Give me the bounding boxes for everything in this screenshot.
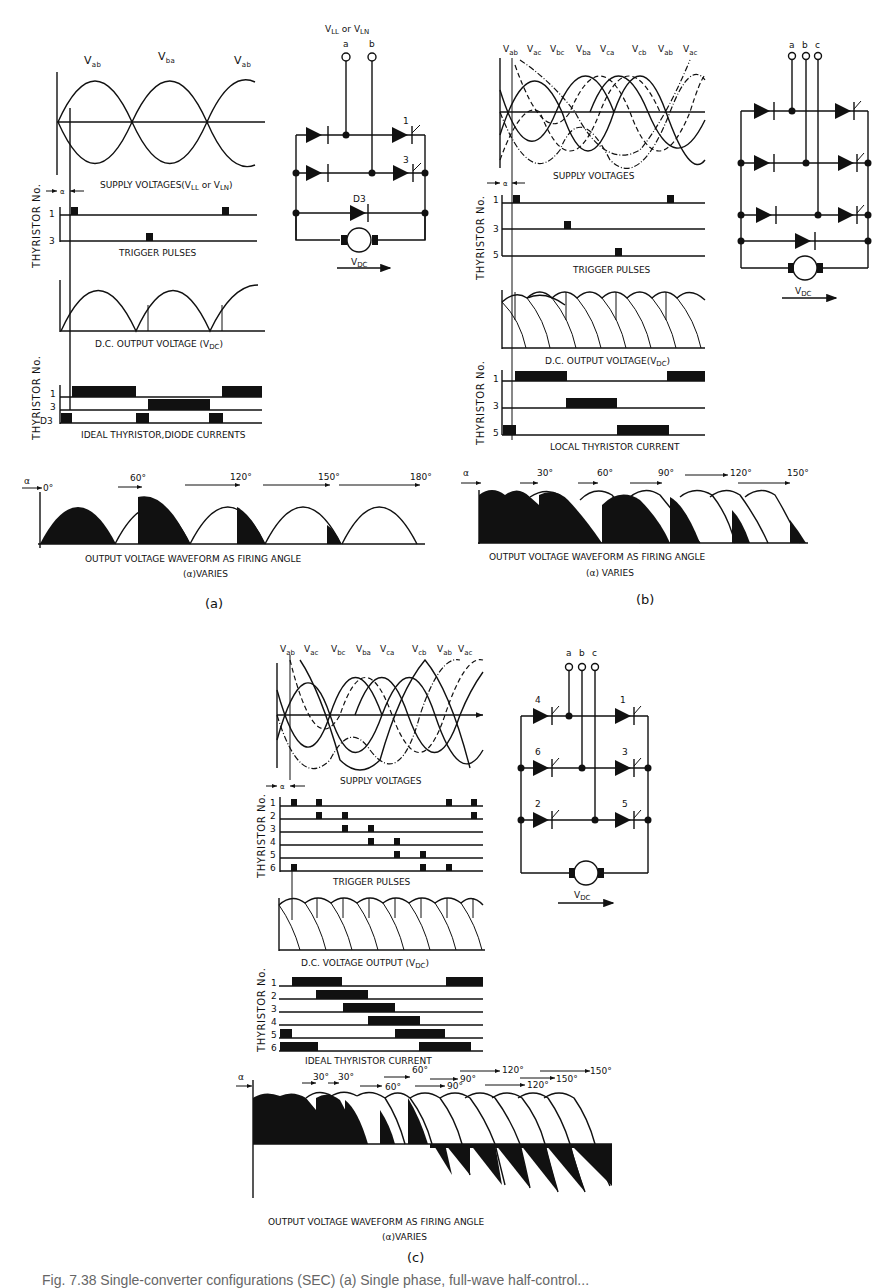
svg-text:60°: 60°: [130, 473, 146, 483]
panel-a-currents: 1 3 D3 IDEAL THYRISTOR,DIODE CURRENTS: [40, 385, 262, 440]
svg-text:5: 5: [270, 850, 276, 860]
svg-text:4: 4: [271, 1017, 277, 1027]
supply-caption: SUPPLY VOLTAGES: [553, 171, 635, 181]
svg-text:α: α: [503, 180, 508, 188]
svg-text:3: 3: [622, 747, 628, 757]
waveform-caption: OUTPUT VOLTAGE WAVEFORM AS FIRING ANGLE: [489, 552, 706, 562]
panel-b-alpha-marker: α: [487, 180, 525, 188]
svg-text:c: c: [592, 648, 597, 658]
figure-caption: Fig. 7.38 Single-converter configuration…: [42, 1272, 589, 1288]
svg-text:Vac: Vac: [527, 44, 541, 57]
svg-text:Vac: Vac: [458, 644, 472, 657]
svg-text:Vab: Vab: [437, 644, 452, 657]
svg-text:(α) VARIES: (α) VARIES: [586, 568, 634, 578]
svg-text:Vac: Vac: [683, 44, 697, 57]
svg-text:Vcb: Vcb: [632, 44, 647, 57]
svg-text:Vbc: Vbc: [550, 44, 565, 57]
svg-text:2: 2: [535, 799, 541, 809]
svg-text:1: 1: [403, 116, 409, 126]
svg-text:30°: 30°: [537, 468, 553, 478]
svg-text:(α)VARIES: (α)VARIES: [183, 569, 228, 579]
panel-label-c: (c): [407, 1250, 424, 1265]
panel-a-output-waveform: α 0° 60° 120° 150° 180°: [22, 472, 432, 579]
dc-caption: D.C. VOLTAGE OUTPUT (VDC): [301, 958, 429, 970]
svg-text:b: b: [579, 648, 585, 658]
svg-text:60°: 60°: [597, 468, 613, 478]
svg-text:3: 3: [49, 236, 55, 246]
svg-text:90°: 90°: [658, 468, 674, 478]
panel-c-supply-voltages: Vab Vac Vbc Vba Vca Vcb Vab Vac SUPPLY V…: [277, 644, 483, 786]
panel-c-alpha-marker: α: [266, 783, 305, 791]
svg-text:1: 1: [493, 374, 499, 384]
svg-text:VLL or VLN: VLL or VLN: [325, 24, 369, 36]
panel-b-dc-output: D.C. OUTPUT VOLTAGE(VDC): [502, 290, 705, 368]
svg-text:3: 3: [270, 824, 276, 834]
svg-text:6: 6: [271, 1043, 277, 1053]
svg-text:Vca: Vca: [600, 44, 614, 57]
label-vab-1: Vab: [84, 54, 101, 69]
panel-a-circuit: VLL or VLN a b: [293, 24, 429, 269]
svg-text:D3: D3: [353, 194, 366, 204]
trigger-caption: TRIGGER PULSES: [118, 248, 197, 258]
svg-text:150°: 150°: [590, 1066, 612, 1076]
svg-text:180°: 180°: [410, 472, 432, 482]
panel-b-output-waveform: α 30° 60° 90° 120° 150°: [461, 468, 809, 578]
svg-text:Vab: Vab: [658, 44, 673, 57]
svg-text:120°: 120°: [230, 472, 252, 482]
svg-text:3: 3: [403, 155, 409, 165]
svg-text:30°: 30°: [338, 1072, 354, 1082]
svg-text:120°: 120°: [502, 1065, 524, 1075]
dc-caption: D.C. OUTPUT VOLTAGE(VDC): [545, 356, 670, 368]
svg-text:150°: 150°: [318, 472, 340, 482]
dc-caption: D.C. OUTPUT VOLTAGE (VDC): [95, 339, 223, 351]
svg-text:5: 5: [493, 250, 499, 260]
svg-text:Vbc: Vbc: [331, 644, 346, 657]
svg-text:4: 4: [535, 695, 541, 705]
svg-text:5: 5: [271, 1030, 277, 1040]
svg-text:c: c: [815, 40, 820, 50]
panel-b-currents: 1 3 5 LOCAL THYRISTOR CURRENT: [493, 370, 705, 452]
panel-a-alpha-marker: α: [46, 188, 84, 196]
svg-text:0°: 0°: [43, 483, 53, 493]
svg-text:90°: 90°: [460, 1074, 476, 1084]
current-caption: IDEAL THYRISTOR,DIODE CURRENTS: [81, 430, 246, 440]
svg-text:6: 6: [535, 747, 541, 757]
svg-text:b: b: [802, 40, 808, 50]
panel-c-output-waveform: α: [236, 1065, 612, 1242]
svg-text:2: 2: [271, 991, 277, 1001]
svg-text:3: 3: [493, 401, 499, 411]
svg-text:a: a: [566, 648, 572, 658]
current-caption: LOCAL THYRISTOR CURRENT: [550, 442, 680, 452]
svg-text:5: 5: [493, 428, 499, 438]
svg-text:120°: 120°: [730, 468, 752, 478]
svg-text:120°: 120°: [527, 1080, 549, 1090]
thyristor-axis-label-2: THYRISTOR No.: [256, 968, 267, 1054]
svg-text:1: 1: [49, 209, 55, 219]
svg-text:30°: 30°: [313, 1072, 329, 1082]
svg-text:α: α: [24, 476, 30, 486]
panel-a: Vab Vba Vab SUPPLY VOLTAGES(VLL or VLN) …: [22, 24, 432, 611]
supply-caption: SUPPLY VOLTAGES(VLL or VLN): [100, 180, 233, 192]
svg-text:Vab: Vab: [280, 644, 295, 657]
svg-text:Vca: Vca: [380, 644, 394, 657]
panel-a-trigger-pulses: 1 3 TRIGGER PULSES: [49, 207, 257, 258]
waveform-caption: OUTPUT VOLTAGE WAVEFORM AS FIRING ANGLE: [85, 554, 302, 564]
panel-a-dc-output: D.C. OUTPUT VOLTAGE (VDC): [60, 280, 265, 351]
svg-text:4: 4: [270, 837, 276, 847]
svg-text:Vab: Vab: [503, 44, 518, 57]
svg-text:1: 1: [271, 978, 277, 988]
thyristor-axis-label: THYRISTOR No.: [475, 196, 486, 282]
svg-text:D3: D3: [40, 416, 53, 426]
svg-text:150°: 150°: [787, 468, 809, 478]
alpha-symbol: α: [60, 188, 65, 196]
thyristor-axis-label: THYRISTOR No.: [256, 794, 267, 880]
svg-text:5: 5: [622, 799, 628, 809]
supply-caption: SUPPLY VOLTAGES: [340, 776, 422, 786]
trigger-caption: TRIGGER PULSES: [332, 877, 411, 887]
panel-c-dc-output: D.C. VOLTAGE OUTPUT (VDC): [279, 898, 485, 970]
svg-text:1: 1: [270, 798, 276, 808]
svg-text:VDC: VDC: [574, 890, 591, 902]
thyristor-axis-label: THYRISTOR No.: [31, 184, 42, 270]
svg-text:1: 1: [50, 389, 56, 399]
